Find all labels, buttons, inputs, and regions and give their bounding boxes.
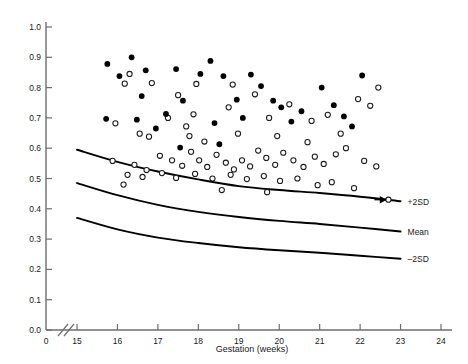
- y-tick-label: 0.2: [29, 264, 41, 274]
- data-point-open: [188, 149, 193, 154]
- data-point-filled: [143, 67, 149, 73]
- data-point-filled: [299, 108, 305, 114]
- reference-curve: [77, 218, 401, 259]
- x-tick-label: 18: [194, 336, 204, 346]
- data-point-open: [368, 103, 373, 108]
- data-point-open: [140, 174, 145, 179]
- data-point-open: [239, 158, 244, 163]
- data-point-open: [374, 164, 379, 169]
- data-point-open: [110, 158, 115, 163]
- data-point-open: [248, 164, 253, 169]
- data-point-open: [176, 93, 181, 98]
- data-point-open: [244, 177, 249, 182]
- data-point-open: [351, 186, 356, 191]
- data-point-filled: [104, 61, 110, 67]
- data-point-open: [193, 171, 198, 176]
- data-point-open: [231, 167, 236, 172]
- annotation-arrow-head: [380, 197, 385, 202]
- data-point-open: [325, 112, 330, 117]
- y-tick-label: 0.5: [29, 174, 41, 184]
- data-point-open: [362, 158, 367, 163]
- x-tick-label: 24: [436, 336, 446, 346]
- reference-curve-group: [77, 150, 401, 259]
- data-point-filled: [270, 98, 276, 104]
- scatter-chart: 0.00.10.20.30.40.50.60.70.80.91.0 151617…: [0, 0, 468, 364]
- data-point-open: [281, 150, 286, 155]
- data-point-open: [252, 92, 257, 97]
- data-point-open: [202, 139, 207, 144]
- data-point-open: [159, 170, 164, 175]
- y-tick-label: 0.9: [29, 52, 41, 62]
- data-point-filled: [173, 66, 179, 72]
- data-point-open: [228, 172, 233, 177]
- data-point-filled: [278, 104, 284, 110]
- y-tick-label: 0.4: [29, 204, 41, 214]
- data-point-open: [194, 81, 199, 86]
- data-point-filled: [234, 97, 240, 103]
- curve-label-group: +2SDMean–2SD: [408, 197, 430, 265]
- data-point-open: [210, 176, 215, 181]
- data-point-filled: [258, 83, 264, 89]
- data-point-open: [312, 154, 317, 159]
- data-point-open: [226, 105, 231, 110]
- data-point-filled: [221, 73, 227, 79]
- data-point-open: [256, 148, 261, 153]
- reference-curve-label: –2SD: [408, 254, 429, 264]
- data-point-open: [343, 146, 348, 151]
- data-point-filled: [180, 98, 186, 104]
- data-point-filled: [212, 120, 218, 126]
- x-tick-label: 15: [72, 336, 82, 346]
- data-point-open: [301, 164, 306, 169]
- data-point-open: [355, 97, 360, 102]
- data-point-open: [180, 163, 185, 168]
- data-point-open: [230, 82, 235, 87]
- data-point-open: [144, 167, 149, 172]
- y-axis-tick-group: 0.00.10.20.30.40.50.60.70.80.91.0: [29, 22, 52, 335]
- data-point-filled: [134, 117, 140, 123]
- data-point-filled: [319, 85, 325, 91]
- data-point-open: [291, 158, 296, 163]
- x-axis-title: Gestation (weeks): [216, 344, 289, 354]
- data-point-filled: [163, 111, 169, 117]
- data-point-open: [376, 85, 381, 90]
- data-point-open: [187, 133, 192, 138]
- data-point-open: [127, 71, 132, 76]
- x-axis-tick-group: 15161718192021222324: [72, 324, 446, 346]
- data-point-open: [219, 187, 224, 192]
- filled-circle-series: [103, 54, 365, 150]
- data-point-open: [184, 124, 189, 129]
- x-tick-label: 16: [113, 336, 123, 346]
- data-point-filled: [288, 119, 294, 125]
- data-point-filled: [216, 141, 222, 147]
- data-point-filled: [208, 58, 214, 64]
- reference-curve-label: Mean: [408, 227, 430, 237]
- data-point-open: [333, 152, 338, 157]
- y-tick-label: 1.0: [29, 22, 41, 32]
- x-tick-label: 23: [396, 336, 406, 346]
- data-point-open: [275, 133, 280, 138]
- data-point-open: [315, 183, 320, 188]
- data-point-open: [113, 121, 118, 126]
- data-point-open: [295, 176, 300, 181]
- data-point-filled: [177, 145, 183, 151]
- data-point-open: [149, 80, 154, 85]
- data-point-open: [321, 161, 326, 166]
- data-point-open: [121, 182, 126, 187]
- data-point-open: [214, 152, 219, 157]
- data-point-open: [146, 134, 151, 139]
- data-point-filled: [240, 115, 246, 121]
- data-point-filled: [349, 123, 355, 129]
- y-tick-label: 0.1: [29, 295, 41, 305]
- data-point-open: [132, 162, 137, 167]
- y-tick-label: 0.8: [29, 83, 41, 93]
- data-point-open: [157, 153, 162, 158]
- data-point-open: [305, 140, 310, 145]
- data-point-open: [264, 190, 269, 195]
- data-point-open: [277, 178, 282, 183]
- data-point-filled: [153, 126, 159, 132]
- data-point-filled: [248, 72, 254, 78]
- y-tick-label: 0.0: [29, 325, 41, 335]
- x-tick-label: 17: [153, 336, 163, 346]
- open-circle-series: [110, 71, 391, 202]
- x-origin-label: 0: [44, 336, 49, 346]
